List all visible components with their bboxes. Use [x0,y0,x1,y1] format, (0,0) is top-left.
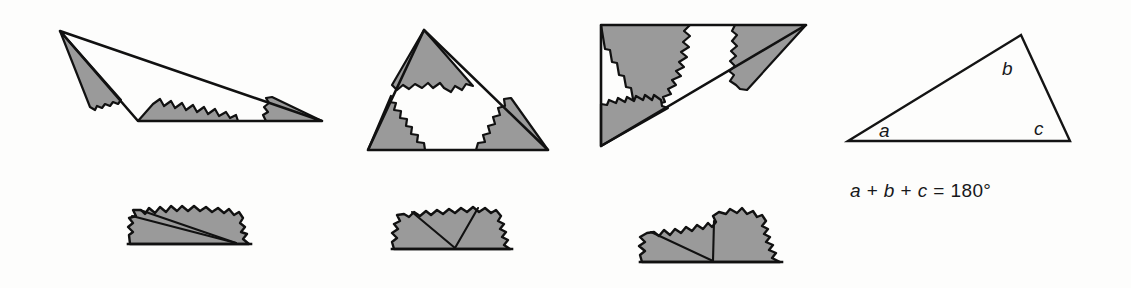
equation-equals: = [933,180,945,201]
triangle-3-angle-topright [729,25,806,90]
strip-1-group [128,206,251,244]
geometry-figure [0,0,1131,288]
triangle-2-angle-right [476,98,548,150]
equation-term-a: a [850,180,861,201]
strip-3-shape [639,208,780,262]
figure-page: a b c a + b + c = 180° [0,0,1131,288]
angle-label-a: a [879,120,890,142]
triangle-2-angle-left [368,96,425,150]
angle-label-c: c [1034,118,1044,140]
equation-plus-1: + [867,180,879,201]
equation-value: 180° [950,180,991,201]
triangle-3-angle-bottomleft [601,95,668,146]
strip-3-group [639,208,782,262]
equation-term-b: b [884,180,895,201]
triangle-3-group [601,25,806,146]
triangle-1-group [60,31,322,121]
strip-3-divider-2 [713,221,714,261]
angle-sum-equation: a + b + c = 180° [850,180,991,202]
strip-2-group [392,207,512,249]
equation-term-c: c [918,180,928,201]
triangle-2-group [368,30,548,150]
equation-plus-2: + [901,180,913,201]
angle-label-b: b [1002,58,1013,80]
strip-2-shape [392,207,510,249]
triangle-1-angle-left [138,99,238,121]
